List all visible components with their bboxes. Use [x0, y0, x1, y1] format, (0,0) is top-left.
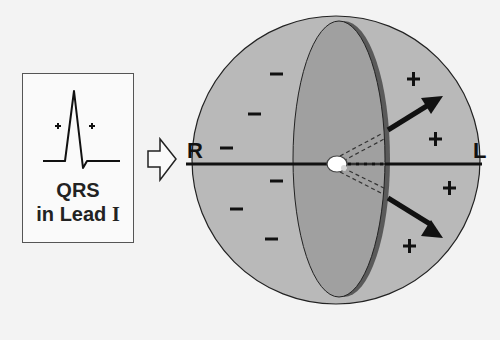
- sphere-diagram: [0, 0, 500, 340]
- right-arm-label: R: [187, 140, 203, 162]
- left-arm-label: L: [473, 140, 486, 162]
- diagram: QRS in Lead I: [0, 0, 500, 340]
